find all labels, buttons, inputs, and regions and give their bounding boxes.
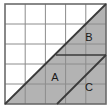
region-label-a: A xyxy=(51,71,59,83)
geometry-diagram-svg: A B C xyxy=(0,0,112,109)
region-label-b: B xyxy=(85,31,92,43)
region-label-c: C xyxy=(85,81,93,93)
geometry-figure: A B C xyxy=(0,0,112,109)
